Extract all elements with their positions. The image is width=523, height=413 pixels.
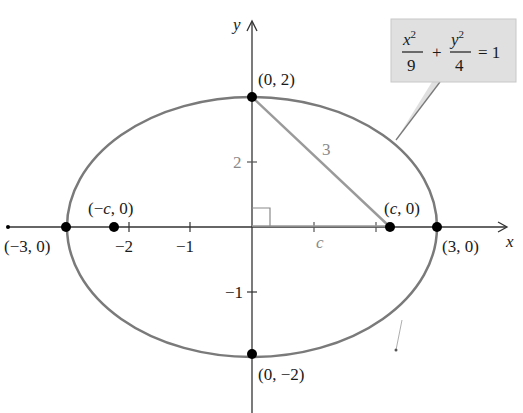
ellipse-diagram: y x −2 −1 2 −1 (0, 2) (0, −2) (−3, 0) (3… bbox=[0, 0, 523, 413]
eq-x-denominator: 9 bbox=[407, 56, 416, 75]
hypotenuse-label: 3 bbox=[322, 140, 331, 159]
point-bottom-vertex bbox=[247, 349, 257, 359]
x-tick-label-neg1: −1 bbox=[176, 237, 194, 256]
point-left-vertex bbox=[61, 222, 71, 232]
label-left-vertex: (−3, 0) bbox=[4, 237, 50, 256]
label-bottom-vertex: (0, −2) bbox=[258, 365, 304, 384]
label-left-focus: (−c, 0) bbox=[88, 199, 133, 218]
point-left-focus bbox=[109, 222, 119, 232]
point-right-vertex bbox=[432, 222, 442, 232]
x-axis-label: x bbox=[505, 232, 514, 251]
y-tick-label-2: 2 bbox=[233, 153, 242, 172]
x-tick-label-neg2: −2 bbox=[115, 237, 133, 256]
eq-y-denominator: 4 bbox=[455, 56, 464, 75]
right-angle-marker-icon bbox=[252, 208, 270, 227]
scan-artifact-dot bbox=[395, 349, 398, 352]
y-axis-label: y bbox=[231, 15, 241, 34]
eq-rhs: = 1 bbox=[478, 43, 500, 62]
point-top-vertex bbox=[247, 92, 257, 102]
point-right-focus bbox=[385, 222, 395, 232]
callout-pointer-line bbox=[396, 82, 440, 140]
horizontal-leg-label: c bbox=[316, 233, 324, 252]
y-tick-label-neg1: −1 bbox=[225, 283, 243, 302]
label-right-focus: (c, 0) bbox=[384, 199, 420, 218]
hypotenuse bbox=[252, 97, 390, 227]
x-axis-left-end-icon bbox=[6, 225, 10, 229]
scan-artifact-mark bbox=[396, 320, 402, 350]
eq-plus: + bbox=[432, 43, 442, 62]
label-top-vertex: (0, 2) bbox=[258, 70, 295, 89]
label-right-vertex: (3, 0) bbox=[442, 237, 479, 256]
